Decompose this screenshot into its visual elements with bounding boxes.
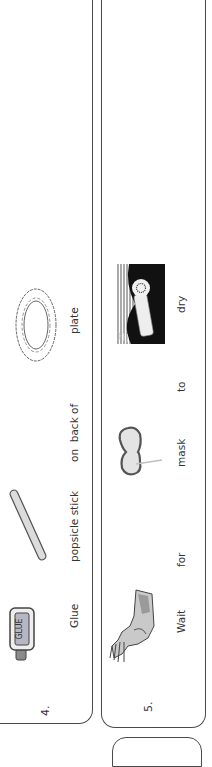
step-number: 5. <box>143 702 154 713</box>
popsicle-stick-icon <box>8 488 48 563</box>
plate-icon <box>12 286 60 364</box>
word-for: for <box>176 553 187 567</box>
word-to: to <box>176 381 187 392</box>
word-plate: plate <box>69 307 80 334</box>
svg-text:GLUE: GLUE <box>15 618 24 639</box>
hand-wait-icon <box>108 586 158 666</box>
next-step-card <box>112 737 202 767</box>
word-wait: Wait <box>176 610 187 633</box>
mask-icon <box>116 424 166 480</box>
word-popsicle-stick: popsicle stick <box>69 491 80 562</box>
word-glue: Glue <box>69 604 80 628</box>
hair-dryer-icon <box>117 264 165 344</box>
word-on-back-of: on back of <box>69 404 80 462</box>
step-number: 4. <box>40 706 51 717</box>
glue-bottle-icon: GLUE <box>6 598 38 662</box>
word-mask: mask <box>176 439 187 467</box>
word-dry: dry <box>176 296 187 313</box>
